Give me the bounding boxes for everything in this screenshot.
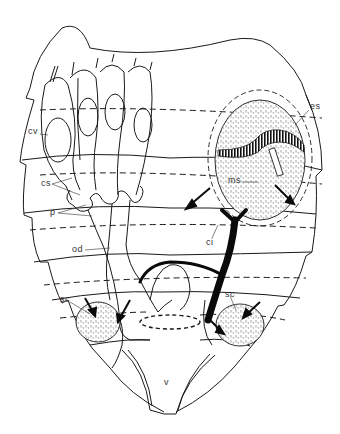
label-sc-left: sc	[60, 294, 70, 304]
label-cs: cs	[41, 178, 51, 188]
sperm-ducts	[140, 210, 246, 320]
mating-structure	[208, 90, 312, 226]
spermathecae	[76, 302, 264, 346]
abdomen-diagram	[0, 0, 340, 434]
label-ms: ms	[228, 175, 241, 185]
label-es: es	[310, 101, 321, 111]
abdomen-outline	[20, 26, 322, 412]
label-v: v	[164, 377, 169, 387]
label-sc-right: sc	[225, 289, 235, 299]
label-p: p	[50, 207, 56, 217]
label-cv: cv	[28, 126, 38, 136]
label-ci: ci	[206, 237, 214, 247]
label-od: od	[72, 244, 83, 254]
